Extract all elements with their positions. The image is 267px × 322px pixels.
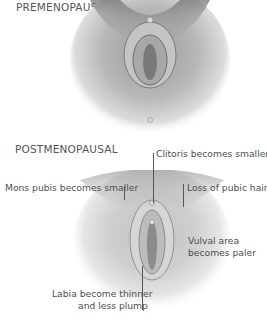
pubic-hair-leader-line	[183, 184, 184, 207]
clitoris-annotation: Clitoris becomes smaller	[156, 148, 267, 160]
premenopausal-vulva-illustration	[60, 0, 240, 140]
vulval-area-annotation-line1: Vulval area	[188, 235, 239, 247]
labia-annotation-line2: and less plump	[78, 300, 148, 312]
vulval-area-annotation-line2: becomes paler	[188, 247, 256, 259]
labia-annotation-line1: Labia become thinner	[52, 288, 152, 300]
pubic-hair-annotation: Loss of pubic hair	[187, 182, 267, 194]
mons-pubis-annotation: Mons pubis becomes smaller	[5, 182, 138, 194]
postmenopausal-title: POSTMENOPAUSAL	[15, 143, 118, 155]
clitoris-leader-line	[153, 153, 154, 203]
